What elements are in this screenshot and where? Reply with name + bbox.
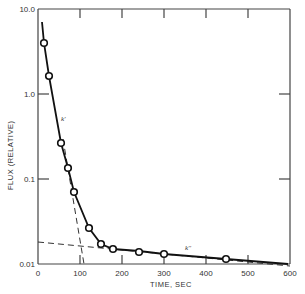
data-point (223, 256, 230, 263)
k-double-prime-annotation: k'' (185, 244, 192, 252)
svg-text:400: 400 (199, 269, 213, 278)
data-point (71, 189, 78, 196)
data-point (136, 249, 143, 256)
svg-text:0.01: 0.01 (19, 260, 35, 269)
x-tick-labels: 0 100 200 300 400 500 600 (36, 269, 297, 278)
svg-text:200: 200 (115, 269, 129, 278)
data-point (46, 73, 53, 80)
k-prime-annotation: k' (61, 115, 66, 123)
x-axis-label: TIME, SEC (150, 280, 192, 289)
data-point (65, 165, 72, 172)
svg-text:500: 500 (241, 269, 255, 278)
svg-text:100: 100 (73, 269, 87, 278)
data-point (86, 225, 93, 232)
svg-text:300: 300 (157, 269, 171, 278)
y-axis-label: FLUX (RELATIVE) (6, 121, 15, 190)
svg-text:600: 600 (283, 269, 297, 278)
plot-frame (38, 9, 290, 264)
svg-text:0.1: 0.1 (24, 175, 36, 184)
svg-text:0: 0 (36, 269, 41, 278)
svg-text:10.0: 10.0 (19, 5, 35, 14)
flux-curve (42, 22, 288, 264)
flux-decay-chart: 10.0 1.0 0.1 0.01 0 100 200 300 400 500 … (0, 0, 305, 294)
svg-text:1.0: 1.0 (24, 90, 36, 99)
data-point (110, 246, 117, 253)
data-point (58, 140, 65, 147)
y-tick-labels: 10.0 1.0 0.1 0.01 (19, 5, 35, 269)
data-point (41, 40, 48, 47)
data-point (161, 251, 168, 258)
dashed-component-lines (38, 139, 290, 266)
data-point-markers (41, 40, 230, 263)
data-point (98, 241, 105, 248)
